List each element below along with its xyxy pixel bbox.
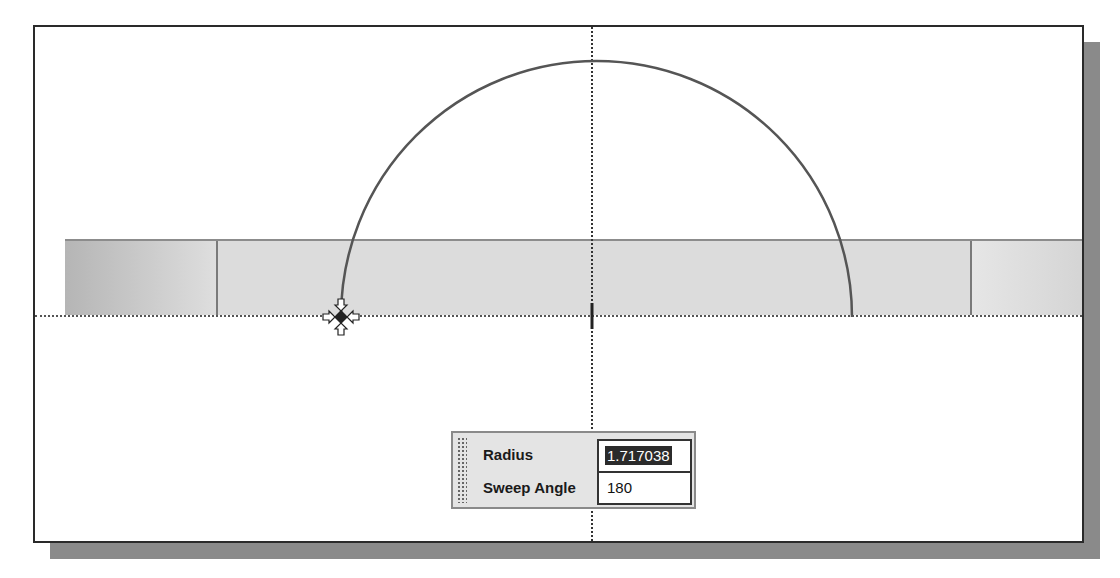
radius-input[interactable]: 1.717038 xyxy=(597,439,692,472)
arc-curve[interactable] xyxy=(341,61,852,317)
snap-endpoint-icon xyxy=(323,299,359,335)
sketch-viewport[interactable]: Radius 1.717038 Sweep Angle 180 xyxy=(33,25,1084,543)
sweep-angle-label: Sweep Angle xyxy=(483,479,576,496)
dynamic-input-panel: Radius 1.717038 Sweep Angle 180 xyxy=(451,431,696,509)
sweep-angle-input[interactable]: 180 xyxy=(597,472,692,505)
radius-value: 1.717038 xyxy=(605,446,672,465)
sweep-angle-value: 180 xyxy=(607,479,632,496)
radius-row: Radius 1.717038 xyxy=(453,439,694,472)
sweep-angle-row: Sweep Angle 180 xyxy=(453,472,694,505)
radius-label: Radius xyxy=(483,446,533,463)
